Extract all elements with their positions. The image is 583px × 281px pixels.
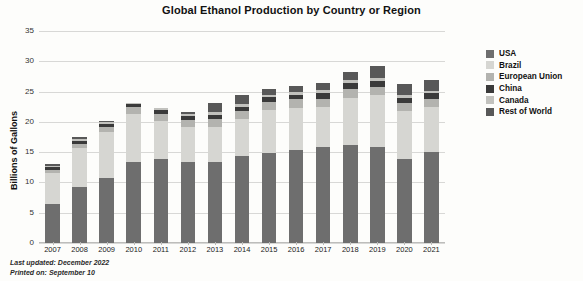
bar-segment <box>126 114 141 162</box>
y-tick-label-25: 25 <box>14 87 34 96</box>
bar-column[interactable] <box>208 103 223 243</box>
bar-column[interactable] <box>72 137 87 243</box>
x-tick-label-2016: 2016 <box>283 245 310 254</box>
bar-column[interactable] <box>316 83 331 243</box>
bar-column[interactable] <box>181 112 196 243</box>
bar-segment <box>235 111 250 119</box>
bar-segment <box>343 89 358 97</box>
bar-segment <box>235 119 250 156</box>
legend-item-rest-of-world[interactable]: Rest of World <box>486 106 562 118</box>
bar-segment <box>424 80 439 92</box>
bar-segment <box>289 108 304 150</box>
bar-segment <box>45 204 60 243</box>
x-tick-mark <box>242 242 243 245</box>
y-tick-label-20: 20 <box>14 117 34 126</box>
x-tick-label-2008: 2008 <box>66 245 93 254</box>
bar-column[interactable] <box>289 86 304 243</box>
bar-column[interactable] <box>99 121 114 243</box>
legend-swatch-icon <box>486 73 494 81</box>
bar-segment <box>370 66 385 78</box>
x-tick-label-2018: 2018 <box>337 245 364 254</box>
legend-label: Canada <box>499 96 529 105</box>
legend-swatch-icon <box>486 50 494 58</box>
bar-segment <box>208 162 223 243</box>
bar-column[interactable] <box>262 89 277 243</box>
x-tick-mark <box>161 242 162 245</box>
bar-column[interactable] <box>397 84 412 243</box>
footnote-last-updated: Last updated: December 2022 <box>10 258 109 268</box>
y-tick-label-10: 10 <box>14 177 34 186</box>
x-tick-label-2017: 2017 <box>310 245 337 254</box>
x-tick-mark <box>404 242 405 245</box>
legend-label: European Union <box>499 72 562 81</box>
bar-segment <box>72 148 87 187</box>
x-tick-label-2019: 2019 <box>364 245 391 254</box>
bar-column[interactable] <box>235 95 250 243</box>
bar-segment <box>45 173 60 203</box>
bar-segment <box>424 99 439 107</box>
legend-item-european-union[interactable]: European Union <box>486 71 562 83</box>
x-tick-mark <box>431 242 432 245</box>
legend-item-canada[interactable]: Canada <box>486 94 562 106</box>
bar-segment <box>424 107 439 152</box>
legend-item-brazil[interactable]: Brazil <box>486 60 562 72</box>
y-tick-label-5: 5 <box>14 208 34 217</box>
bar-column[interactable] <box>370 66 385 243</box>
x-tick-label-2011: 2011 <box>147 245 174 254</box>
chart-container: Global Ethanol Production by Country or … <box>0 0 583 281</box>
bar-segment <box>235 95 250 104</box>
x-tick-mark <box>188 242 189 245</box>
footnote: Last updated: December 2022 Printed on: … <box>10 258 109 277</box>
bar-column[interactable] <box>154 108 169 243</box>
y-tick-label-15: 15 <box>14 147 34 156</box>
bar-segment <box>72 187 87 243</box>
bar-segment <box>397 111 412 159</box>
bar-segment <box>181 127 196 162</box>
x-tick-label-2010: 2010 <box>120 245 147 254</box>
bar-column[interactable] <box>343 72 358 243</box>
bar-segment <box>181 162 196 243</box>
x-tick-mark <box>107 242 108 245</box>
legend-item-usa[interactable]: USA <box>486 48 562 60</box>
bar-segment <box>370 147 385 243</box>
y-axis-title-wrap: Billions of Gallons <box>0 70 12 190</box>
bar-segment <box>99 132 114 177</box>
bar-segment <box>424 152 439 243</box>
bar-segment <box>181 120 196 127</box>
x-tick-label-2013: 2013 <box>201 245 228 254</box>
plot-area <box>39 31 445 243</box>
x-tick-mark <box>134 242 135 245</box>
bar-segment <box>316 107 331 147</box>
bar-segment <box>316 83 331 91</box>
x-tick-mark <box>269 242 270 245</box>
bar-column[interactable] <box>45 164 60 243</box>
y-tick-label-35: 35 <box>14 26 34 35</box>
x-tick-label-2014: 2014 <box>228 245 255 254</box>
bar-segment <box>343 145 358 243</box>
bar-segment <box>154 159 169 243</box>
chart-legend: USABrazilEuropean UnionChinaCanadaRest o… <box>486 48 562 118</box>
legend-label: China <box>499 84 522 93</box>
bar-segment <box>208 103 223 113</box>
footnote-printed-on: Printed on: September 10 <box>10 268 109 278</box>
bar-segment <box>262 102 277 110</box>
x-axis-ticks: 2007200820092010201120122013201420152016… <box>39 245 445 259</box>
legend-label: Rest of World <box>499 107 552 116</box>
x-tick-mark <box>215 242 216 245</box>
bar-segment <box>289 150 304 243</box>
y-tick-label-30: 30 <box>14 56 34 65</box>
bar-column[interactable] <box>126 103 141 243</box>
x-tick-mark <box>80 242 81 245</box>
x-tick-mark <box>53 242 54 245</box>
bar-segment <box>397 84 412 95</box>
x-tick-label-2012: 2012 <box>174 245 201 254</box>
bar-segment <box>208 119 223 127</box>
bar-segment <box>343 98 358 146</box>
legend-swatch-icon <box>486 96 494 104</box>
legend-item-china[interactable]: China <box>486 83 562 95</box>
x-tick-mark <box>323 242 324 245</box>
x-tick-label-2020: 2020 <box>391 245 418 254</box>
legend-label: USA <box>499 49 516 58</box>
bar-segment <box>397 103 412 111</box>
bar-column[interactable] <box>424 80 439 243</box>
